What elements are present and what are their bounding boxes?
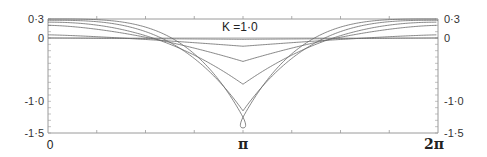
x-tick-label: π <box>238 136 248 152</box>
y-tick-right: 0·3 <box>444 13 460 25</box>
y-tick-right: -1·5 <box>444 127 464 139</box>
loop-curve-6 <box>240 117 245 128</box>
y-tick-left: 0·3 <box>28 13 44 25</box>
x-tick-label: 0 <box>47 138 54 152</box>
y-tick-left: -1·0 <box>24 95 44 107</box>
y-tick-right: -1·0 <box>444 95 464 107</box>
y-tick-left: -1·5 <box>24 127 44 139</box>
y-tick-left: 0 <box>38 32 44 44</box>
series-curve-2 <box>48 35 436 46</box>
k-annotation: K =1·0 <box>222 20 258 34</box>
y-tick-right: 0 <box>444 32 450 44</box>
x-tick-label: 2π <box>424 136 444 152</box>
chart: 0·30-1·0-1·50·30-1·0-1·50π2π K =1·0 <box>0 0 487 157</box>
curves <box>48 19 438 128</box>
